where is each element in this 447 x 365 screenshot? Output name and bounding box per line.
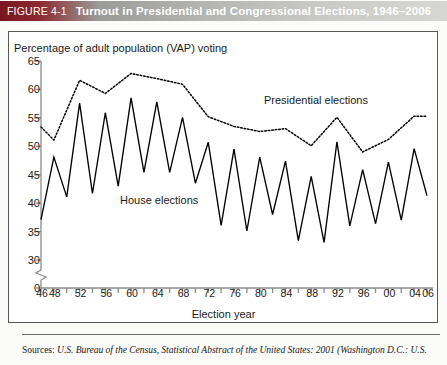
source-note: Sources: U.S. Bureau of the Census, Stat… [22, 344, 447, 355]
plot-area [8, 31, 438, 323]
annotation-house-elections: House elections [120, 194, 198, 206]
x-tick-label: 60 [126, 287, 138, 299]
x-tick-label: 64 [152, 287, 164, 299]
footer-divider [22, 334, 440, 335]
figure-header-bar: FIGURE 4-1 Turnout in Presidential and C… [0, 1, 447, 21]
x-tick-label: 06 [422, 287, 434, 299]
y-tick-label: 35 [18, 226, 40, 238]
source-lead: Sources: [22, 344, 55, 355]
x-tick-label: 68 [178, 287, 190, 299]
source-text: U.S. Bureau of the Census, Statistical A… [57, 344, 427, 355]
x-axis-ticklabels: 4648525660646872768084889296000406 [0, 287, 447, 303]
y-tick-label: 65 [18, 55, 40, 67]
chart-svg [9, 32, 437, 322]
x-tick-label: 84 [281, 287, 293, 299]
x-axis-title: Election year [0, 308, 447, 320]
x-tick-label: 52 [75, 287, 87, 299]
annotation-presidential-elections: Presidential elections [264, 94, 368, 106]
y-axis-ticklabels: 65605550454035300 [12, 31, 40, 323]
x-tick-label: 88 [306, 287, 318, 299]
y-tick-label: 30 [18, 254, 40, 266]
y-tick-label: 55 [18, 112, 40, 124]
x-tick-label: 46 [36, 287, 48, 299]
x-tick-label: 56 [100, 287, 112, 299]
y-axis-title: Percentage of adult population (VAP) vot… [14, 42, 227, 54]
x-tick-label: 80 [255, 287, 267, 299]
y-tick-label: 40 [18, 197, 40, 209]
x-tick-label: 04 [409, 287, 421, 299]
figure-number: FIGURE 4-1 [0, 5, 67, 17]
x-tick-label: 76 [229, 287, 241, 299]
figure-container: FIGURE 4-1 Turnout in Presidential and C… [0, 0, 447, 365]
figure-title: Turnout in Presidential and Congressiona… [67, 5, 432, 17]
series-line-house-elections [41, 98, 427, 242]
y-tick-label: 50 [18, 140, 40, 152]
y-tick-label: 60 [18, 83, 40, 95]
x-tick-label: 00 [384, 287, 396, 299]
x-tick-label: 72 [203, 287, 215, 299]
x-tick-label: 92 [332, 287, 344, 299]
y-tick-label: 45 [18, 169, 40, 181]
series-line-presidential-elections [41, 74, 427, 152]
x-tick-label: 48 [49, 287, 61, 299]
x-tick-label: 96 [358, 287, 370, 299]
